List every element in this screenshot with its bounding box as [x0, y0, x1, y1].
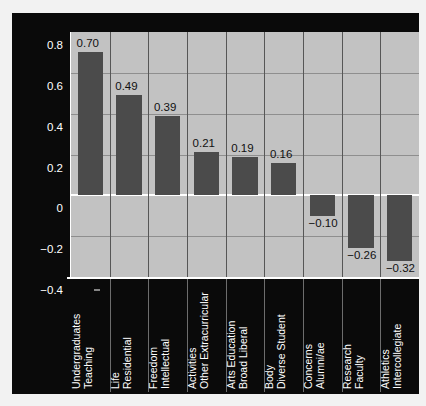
x-tick-label-line: Arts Education [226, 321, 238, 389]
x-tick-label-line: Teaching [83, 347, 95, 389]
x-axis-category-labels: TeachingUndergraduatesResidentialLifeInt… [71, 279, 419, 392]
gridline-vertical [226, 32, 227, 277]
bar[interactable] [116, 95, 142, 195]
y-axis-ticks: 0.80.60.40.20−0.2−0.4 [30, 32, 63, 277]
x-tick-label-line: Residential [122, 337, 134, 389]
x-tick-label-line: Broad Liberal [238, 327, 250, 389]
y-tick-label: 0.2 [47, 162, 63, 174]
bar-value-label: 0.16 [270, 148, 292, 160]
gridline-vertical [380, 32, 381, 277]
x-tick-label-line: Undergraduates [71, 314, 83, 389]
x-tick-label: Other ExtracurricularActivities [187, 279, 226, 392]
x-tick-label-line: Body [264, 365, 276, 389]
gridline-vertical [148, 32, 149, 277]
y-tick-label: 0.4 [47, 121, 63, 133]
x-tick-label: Diverse StudentBody [264, 279, 303, 392]
x-tick-label-line: Athletics [380, 349, 392, 389]
x-tick-label-line: Alumni/ae [315, 342, 327, 389]
bar[interactable] [232, 157, 258, 196]
y-tick-label: 0 [57, 202, 63, 214]
x-tick-label: Alumni/aeConcerns [303, 279, 342, 392]
x-tick-label: ResidentialLife [110, 279, 149, 392]
bar[interactable] [78, 52, 104, 195]
gridline-vertical [342, 32, 343, 277]
x-tick-label: FacultyResearch [342, 279, 381, 392]
bar-value-label: −0.26 [347, 249, 376, 261]
bar[interactable] [310, 195, 336, 215]
y-tick-label: −0.4 [40, 284, 63, 296]
chart-figure: Desired Change from Present Degree of In… [12, 13, 419, 394]
bar-value-label: 0.70 [77, 37, 99, 49]
plot-area: 0.700.490.390.210.190.16−0.10−0.26−0.32 [71, 32, 419, 277]
x-tick-label-line: Life [110, 372, 122, 389]
y-tick-label: 0.6 [47, 80, 63, 92]
x-tick-label: Broad LiberalArts Education [226, 279, 265, 392]
bar-value-label: −0.32 [386, 262, 415, 274]
y-tick-label: 0.8 [47, 39, 63, 51]
x-tick-label-line: Concerns [303, 344, 315, 389]
x-tick-label-line: Intellectual [160, 339, 172, 389]
gridline-vertical [264, 32, 265, 277]
x-tick-label: IntercollegiateAthletics [380, 279, 419, 392]
x-tick-label-line: Faculty [354, 355, 366, 389]
x-tick-label: IntellectualFreedom [148, 279, 187, 392]
gridline-horizontal [71, 73, 419, 74]
x-tick-label-line: Freedom [148, 347, 160, 389]
x-tick-label-line: Other Extracurricular [199, 292, 211, 389]
x-tick-label-line: Diverse Student [276, 314, 288, 389]
x-tick-label-line: Research [342, 344, 354, 389]
y-tick-label: −0.2 [40, 243, 63, 255]
x-tick-label-line: Activities [187, 348, 199, 389]
bar[interactable] [271, 163, 297, 196]
bar-value-label: −0.10 [309, 217, 338, 229]
x-tick-label: TeachingUndergraduates [71, 279, 110, 392]
bar-value-label: 0.21 [193, 137, 215, 149]
bar-value-label: 0.39 [154, 101, 176, 113]
bar[interactable] [387, 195, 413, 260]
bar[interactable] [348, 195, 374, 248]
bar-value-label: 0.49 [115, 80, 137, 92]
gridline-vertical [110, 32, 111, 277]
gridline-vertical [187, 32, 188, 277]
gridline-vertical [303, 32, 304, 277]
bar-value-label: 0.19 [231, 142, 253, 154]
bar[interactable] [155, 116, 181, 196]
bar[interactable] [194, 152, 220, 195]
x-tick-label-line: Intercollegiate [392, 324, 404, 389]
